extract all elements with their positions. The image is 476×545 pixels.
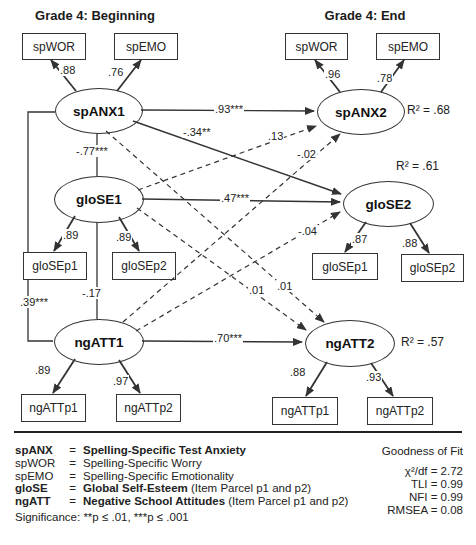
box-spwor-t2: spWOR: [285, 33, 348, 60]
path-coef-spanx1-glose2: -.34**: [182, 126, 212, 138]
arrow-ngatt1-ngattp1: [53, 359, 75, 393]
loading-glosep1-t2: .87: [351, 233, 368, 245]
goodness-of-fit-block: Goodness of Fit χ²/df = 2.72 TLI = 0.99 …: [313, 445, 463, 517]
legend-note: (Item Parcel p1 and p2): [188, 482, 311, 494]
latent-ngatt2: ngATT2: [305, 320, 395, 367]
legend-definition: Global Self-Esteem: [83, 482, 188, 494]
legend-definition: Spelling-Specific Worry: [83, 457, 202, 469]
latent-spanx1: spANX1: [55, 88, 143, 134]
latent-spanx2: spANX2: [317, 89, 405, 135]
latent-glose2: gloSE2: [343, 181, 434, 227]
fit-rmsea: RMSEA = 0.08: [313, 504, 463, 517]
loading-spemo-t1: .76: [107, 66, 124, 78]
sem-path-diagram: Grade 4: Beginning Grade 4: End spWOR sp…: [0, 0, 476, 545]
r2-ngatt2: R² = .57: [401, 336, 444, 349]
box-glosep2-t2: gloSEp2: [401, 254, 464, 282]
loading-ngattp1-t2: .88: [289, 366, 306, 378]
legend-definition: Spelling-Specific Test Anxiety: [83, 444, 246, 456]
loading-ngattp2-t2: .93: [365, 371, 382, 383]
latent-glose1: gloSE1: [54, 176, 144, 223]
loading-spwor-t1: .88: [59, 64, 76, 76]
legend-definition: Negative School Attitudes: [83, 495, 225, 507]
r2-spanx2: R² = .68: [407, 104, 450, 117]
corr-coef-spanx1-ngatt1: .39***: [19, 296, 49, 308]
legend-row-spemo: spEMO = Spelling-Specific Emotionality: [15, 470, 355, 483]
equals-sign: =: [62, 482, 83, 495]
path-coef-ngatt-stability: .70***: [213, 332, 243, 344]
header-grade4-end: Grade 4: End: [295, 8, 435, 23]
box-spemo-t1: spEMO: [114, 33, 178, 60]
legend-row-spanx: spANX = Spelling-Specific Test Anxiety: [15, 444, 355, 457]
box-ngattp1-t1: ngATTp1: [21, 394, 86, 422]
fit-tli: TLI = 0.99: [313, 478, 463, 491]
path-coef-ngatt1-glose2: -.04: [297, 225, 318, 237]
corr-coef-spanx1-glose1: -.77***: [75, 145, 109, 157]
legend-row-glose: gloSE = Global Self-Esteem (Item Parcel …: [15, 482, 355, 495]
box-ngattp1-t2: ngATTp1: [272, 397, 338, 425]
loading-glosep2-t2: .88: [401, 237, 418, 249]
box-spemo-t2: spEMO: [376, 33, 440, 60]
box-glosep1-t2: gloSEp1: [312, 253, 378, 280]
path-coef-glose1-spanx2: .13: [267, 130, 284, 142]
box-ngattp2-t1: ngATTp2: [116, 394, 181, 422]
equals-sign: =: [62, 495, 83, 508]
fit-title: Goodness of Fit: [313, 445, 463, 457]
loading-glosep2-t1: .89: [115, 231, 132, 243]
path-coef-ngatt1-spanx2: -.02: [296, 148, 317, 160]
r2-glose2: R² = .61: [396, 160, 439, 173]
latent-ngatt1: ngATT1: [54, 319, 144, 365]
equals-sign: =: [62, 444, 83, 457]
box-glosep1-t1: gloSEp1: [23, 252, 87, 280]
equals-sign: =: [62, 470, 83, 483]
legend-abbr: gloSE: [15, 482, 62, 495]
legend-abbr: spANX: [15, 444, 62, 457]
loading-spemo-t2: .78: [376, 72, 393, 84]
fit-chi-square: χ²/df = 2.72: [313, 465, 463, 478]
path-coef-glose1-ngatt2: .01: [248, 284, 265, 296]
legend-abbr: ngATT: [15, 495, 62, 508]
box-glosep2-t1: gloSEp2: [112, 252, 176, 280]
loading-ngattp1-t1: .89: [34, 364, 51, 376]
significance-note: Significance: **p ≤ .01, ***p ≤ .001: [15, 511, 355, 524]
legend-abbr: spWOR: [15, 457, 62, 470]
header-grade4-beginning: Grade 4: Beginning: [25, 8, 165, 23]
path-coef-spanx-stability: .93***: [214, 103, 244, 115]
equals-sign: =: [62, 457, 83, 470]
loading-ngattp2-t1: .97: [112, 375, 129, 387]
box-ngattp2-t2: ngATTp2: [367, 397, 433, 425]
legend-abbr: spEMO: [15, 470, 62, 483]
path-coef-spanx1-ngatt2: .01: [276, 280, 293, 292]
arrow-spanx1-ngatt2: [106, 131, 324, 322]
legend-definition: Spelling-Specific Emotionality: [83, 470, 234, 482]
corr-coef-glose1-ngatt1: -.17: [81, 287, 102, 299]
legend-block: spANX = Spelling-Specific Test Anxiety s…: [15, 444, 355, 524]
path-coef-glose-stability: .47***: [220, 192, 250, 204]
loading-spwor-t2: .96: [324, 68, 341, 80]
loading-glosep1-t1: .89: [62, 229, 79, 241]
fit-nfi: NFI = 0.99: [313, 491, 463, 504]
legend-separator: [14, 431, 462, 433]
legend-row-ngatt: ngATT = Negative School Attitudes (Item …: [15, 495, 355, 508]
legend-row-spwor: spWOR = Spelling-Specific Worry: [15, 457, 355, 470]
arrow-glose1-spanx2: [138, 126, 316, 190]
box-spwor-t1: spWOR: [22, 33, 86, 60]
arrow-ngatt2-ngattp1: [306, 362, 327, 396]
